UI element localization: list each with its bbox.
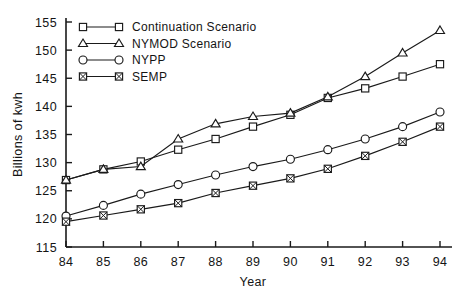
data-point <box>100 212 107 219</box>
marker-square <box>175 146 182 153</box>
marker-square <box>249 123 256 130</box>
data-point <box>62 218 69 225</box>
legend-label: NYMOD Scenario <box>132 37 232 51</box>
marker-square <box>115 23 122 30</box>
legend: Continuation ScenarioNYMOD ScenarioNYPPS… <box>79 20 257 84</box>
marker-circle <box>324 146 332 154</box>
marker-square <box>436 61 443 68</box>
marker-circle <box>79 56 87 64</box>
marker-square <box>399 73 406 80</box>
legend-marker <box>79 73 86 80</box>
legend-marker <box>115 56 123 64</box>
y-axis-tick-label: 145 <box>35 72 57 86</box>
marker-triangle <box>79 39 88 46</box>
marker-triangle <box>115 39 124 46</box>
data-point <box>361 135 369 143</box>
y-axis-tick-label: 120 <box>35 212 57 226</box>
data-point <box>212 189 219 196</box>
data-point <box>174 181 182 189</box>
legend-marker <box>115 23 122 30</box>
legend-marker <box>115 73 122 80</box>
x-axis-tick-label: 85 <box>96 255 111 269</box>
data-point <box>249 123 256 130</box>
y-axis-tick-label: 115 <box>36 241 57 255</box>
marker-circle <box>249 163 257 171</box>
y-axis-tick-label: 135 <box>35 128 57 142</box>
x-axis-tick-label: 88 <box>208 255 223 269</box>
legend-label: Continuation Scenario <box>132 20 256 34</box>
marker-circle <box>137 190 145 198</box>
x-axis-tick-label: 87 <box>171 255 186 269</box>
marker-square <box>362 85 369 92</box>
y-axis-tick-label: 155 <box>35 16 57 30</box>
series-nymod-scenario <box>62 26 445 183</box>
marker-circle <box>436 108 444 116</box>
legend-marker <box>79 23 86 30</box>
x-axis-tick-label: 90 <box>283 255 298 269</box>
chart-page: 1151201251301351401451501558485868788899… <box>0 0 470 294</box>
legend-marker <box>79 39 88 46</box>
x-axis-tick-label: 94 <box>433 255 448 269</box>
y-axis-tick-label: 125 <box>35 184 57 198</box>
marker-triangle <box>436 26 445 33</box>
marker-circle <box>286 155 294 163</box>
marker-circle <box>399 123 407 131</box>
line-chart: 1151201251301351401451501558485868788899… <box>0 0 470 294</box>
data-point <box>436 123 443 130</box>
x-axis-tick-label: 86 <box>133 255 148 269</box>
legend-marker <box>115 39 124 46</box>
marker-triangle <box>361 72 370 79</box>
data-point <box>399 138 406 145</box>
marker-circle <box>212 171 220 179</box>
legend-label: NYPP <box>132 53 166 67</box>
y-axis-tick-label: 150 <box>35 44 57 58</box>
data-point <box>99 201 107 209</box>
data-point <box>436 61 443 68</box>
x-axis-tick-label: 93 <box>395 255 410 269</box>
marker-circle <box>361 135 369 143</box>
x-axis-tick-label: 91 <box>320 255 335 269</box>
data-point <box>436 108 444 116</box>
data-point <box>175 146 182 153</box>
data-point <box>398 48 407 55</box>
y-axis-title: Billions of kwh <box>11 92 25 177</box>
data-point <box>324 165 331 172</box>
legend-label: SEMP <box>132 70 167 84</box>
marker-triangle <box>398 48 407 55</box>
series-semp <box>62 123 443 225</box>
marker-square <box>79 23 86 30</box>
data-point <box>175 200 182 207</box>
marker-circle <box>99 201 107 209</box>
data-point <box>362 152 369 159</box>
marker-circle <box>115 56 123 64</box>
data-point <box>212 171 220 179</box>
data-point <box>137 206 144 213</box>
data-point <box>324 146 332 154</box>
data-point <box>137 190 145 198</box>
data-point <box>249 163 257 171</box>
x-axis-tick-label: 92 <box>358 255 373 269</box>
marker-circle <box>174 181 182 189</box>
data-point <box>399 123 407 131</box>
data-point <box>361 72 370 79</box>
x-axis-tick-label: 89 <box>246 255 261 269</box>
data-point <box>436 26 445 33</box>
legend-marker <box>79 56 87 64</box>
data-point <box>212 135 219 142</box>
y-axis-tick-label: 140 <box>35 100 57 114</box>
data-point <box>362 85 369 92</box>
data-point <box>287 175 294 182</box>
data-point <box>286 155 294 163</box>
series-line <box>66 30 440 180</box>
y-axis-tick-label: 130 <box>35 156 57 170</box>
marker-square <box>212 135 219 142</box>
data-point <box>249 182 256 189</box>
x-axis-tick-label: 84 <box>59 255 74 269</box>
series-line <box>66 127 440 222</box>
data-point <box>399 73 406 80</box>
x-axis-title: Year <box>240 275 267 289</box>
